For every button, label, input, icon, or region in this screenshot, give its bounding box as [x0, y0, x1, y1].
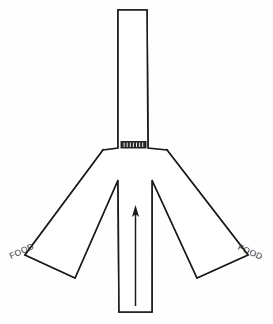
maze-outline: [25, 10, 248, 312]
figure-canvas: FOOD FOOD: [0, 0, 273, 324]
hatched-gate[interactable]: [121, 142, 146, 149]
y-maze-diagram: FOOD FOOD: [0, 0, 273, 324]
